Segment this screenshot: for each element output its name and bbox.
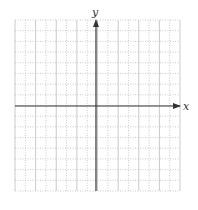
coordinate-plane: x y — [0, 0, 198, 210]
y-axis-label: y — [91, 6, 99, 19]
x-axis-label: x — [183, 100, 190, 113]
